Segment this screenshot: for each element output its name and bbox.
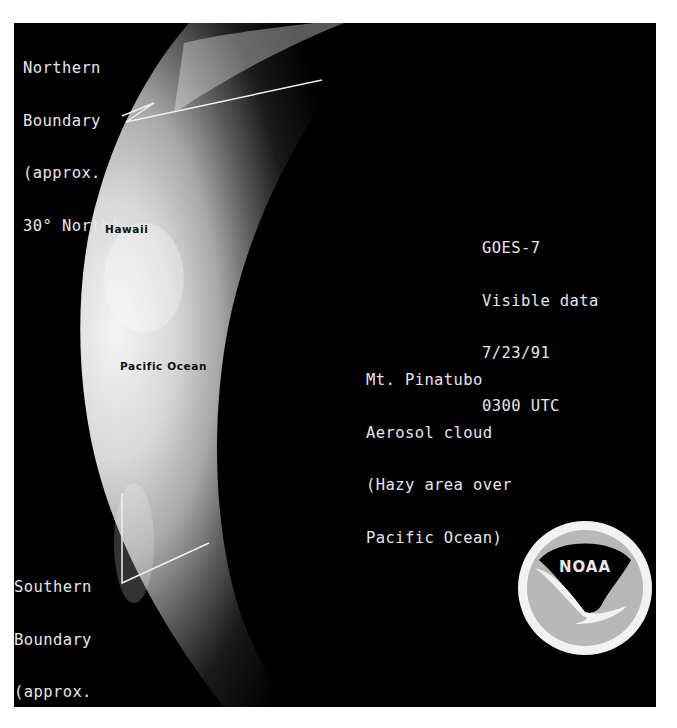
aerosol-line-2: Aerosol cloud: [366, 425, 512, 443]
data-type: Visible data: [482, 293, 599, 311]
northern-line-1: Northern: [23, 60, 120, 78]
pacific-ocean-label: Pacific Ocean: [120, 360, 207, 372]
northern-line-3: (approx.: [23, 165, 120, 183]
southern-line-3: (approx.: [14, 684, 111, 702]
aerosol-line-4: Pacific Ocean): [366, 530, 512, 548]
noaa-emblem-icon: [517, 520, 653, 656]
southern-line-1: Southern: [14, 579, 111, 597]
satellite-name: GOES-7: [482, 240, 599, 258]
aerosol-note-label: Mt. Pinatubo Aerosol cloud (Hazy area ov…: [366, 337, 512, 582]
hawaii-label: Hawaii: [105, 223, 148, 235]
aerosol-line-1: Mt. Pinatubo: [366, 372, 512, 390]
noaa-text: NOAA: [517, 558, 653, 576]
southern-line-2: Boundary: [14, 632, 111, 650]
southern-boundary-label: Southern Boundary (approx. 20° South): [14, 544, 111, 707]
noaa-logo: NOAA: [517, 520, 653, 656]
aerosol-line-3: (Hazy area over: [366, 477, 512, 495]
northern-line-2: Boundary: [23, 113, 120, 131]
satellite-image-frame: Northern Boundary (approx. 30° North) Ha…: [14, 23, 656, 707]
